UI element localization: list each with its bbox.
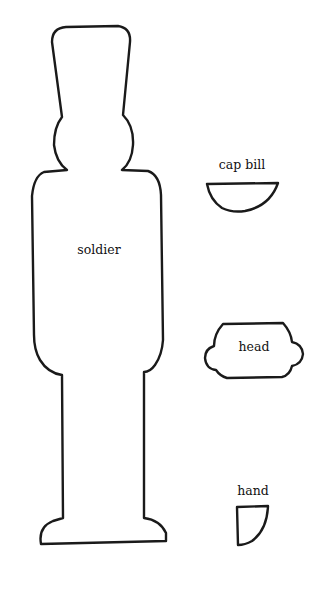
pattern-template — [0, 0, 320, 596]
soldier-outline — [32, 26, 166, 544]
hand-outline — [237, 506, 268, 545]
cap-bill-outline — [207, 183, 278, 212]
cap-bill-label: cap bill — [219, 157, 265, 172]
hand-label: hand — [237, 483, 269, 498]
head-label: head — [239, 339, 270, 354]
soldier-label: soldier — [77, 242, 120, 257]
